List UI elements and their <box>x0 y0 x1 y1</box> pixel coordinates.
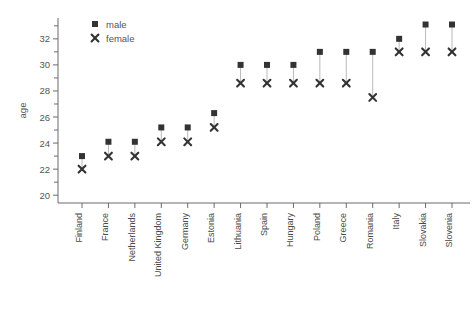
x-tick-label: Poland <box>312 213 322 241</box>
y-tick-label: 24 <box>39 138 50 149</box>
chart-legend: malefemale <box>92 19 135 44</box>
x-tick-label: Spain <box>259 213 269 236</box>
y-tick-label: 20 <box>39 190 50 201</box>
male-point <box>370 49 376 55</box>
x-tick-label: Germany <box>180 213 190 251</box>
legend-marker-male <box>92 21 98 27</box>
male-point <box>396 36 402 42</box>
male-point <box>185 124 191 130</box>
x-tick-label: Romania <box>365 213 375 249</box>
y-axis-title-label: age <box>17 103 28 119</box>
male-point <box>264 62 270 68</box>
x-tick-label: Hungary <box>285 213 295 248</box>
x-tick-label: Finland <box>74 213 84 243</box>
male-point <box>211 110 217 116</box>
x-tick-label: United Kingdom <box>153 213 163 277</box>
x-tick-label: Italy <box>391 213 401 230</box>
x-axis: FinlandFranceNetherlandsUnited KingdomGe… <box>58 203 470 277</box>
male-point <box>238 62 244 68</box>
x-tick-label: France <box>100 213 110 241</box>
y-tick-label: 22 <box>39 164 50 175</box>
x-tick-label: Slovenia <box>444 213 454 248</box>
male-point <box>343 49 349 55</box>
y-tick-label: 26 <box>39 112 50 123</box>
y-axis-title: age <box>17 103 28 119</box>
y-tick-label: 32 <box>39 33 50 44</box>
male-point <box>105 139 111 145</box>
x-tick-label: Slovakia <box>418 213 428 247</box>
male-point <box>449 22 455 28</box>
chart-svg: 20222426283032 FinlandFranceNetherlandsU… <box>0 0 476 310</box>
x-tick-label: Estonia <box>206 213 216 243</box>
y-axis: 20222426283032 <box>39 18 58 203</box>
male-point <box>317 49 323 55</box>
data-points <box>79 22 456 173</box>
male-point <box>158 124 164 130</box>
x-tick-label: Greece <box>338 213 348 243</box>
y-tick-label: 30 <box>39 59 50 70</box>
legend-label: female <box>106 33 135 44</box>
x-tick-label: Lithuania <box>233 213 243 250</box>
legend-label: male <box>106 19 127 30</box>
y-tick-label: 28 <box>39 85 50 96</box>
chart-container: 20222426283032 FinlandFranceNetherlandsU… <box>0 0 476 310</box>
male-point <box>423 22 429 28</box>
x-tick-label: Netherlands <box>127 213 137 262</box>
plot-area: 20222426283032 FinlandFranceNetherlandsU… <box>0 0 476 310</box>
male-point <box>79 153 85 159</box>
male-point <box>132 139 138 145</box>
legend-marker-female <box>92 35 99 42</box>
male-point <box>290 62 296 68</box>
